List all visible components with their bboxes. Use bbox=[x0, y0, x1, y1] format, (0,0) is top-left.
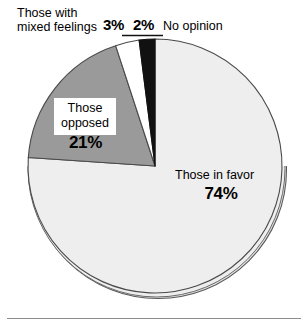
callout-label-no-opinion: No opinion bbox=[163, 19, 223, 33]
pie-chart-graphic bbox=[0, 0, 308, 326]
callout-value-no-opinion: 2% bbox=[133, 17, 154, 34]
callout-mixed-line1: Those with bbox=[17, 6, 97, 20]
opposed-label-line1: Those bbox=[61, 101, 109, 116]
footer-rule bbox=[7, 318, 301, 319]
pie-chart-figure: Those with mixed feelings 3% 2% No opini… bbox=[0, 0, 308, 326]
slice-value-those-opposed: 21% bbox=[54, 133, 117, 152]
callout-label-mixed-feelings: Those with mixed feelings bbox=[17, 6, 97, 34]
callout-value-mixed-feelings: 3% bbox=[103, 17, 124, 34]
slice-label-those-in-favor: Those in favor bbox=[175, 168, 254, 182]
slice-value-those-in-favor: 74% bbox=[175, 184, 267, 203]
opposed-label-line2: opposed bbox=[61, 116, 109, 131]
callout-mixed-line2: mixed feelings bbox=[17, 20, 97, 34]
slice-label-box-those-opposed: Those opposed bbox=[54, 98, 116, 135]
